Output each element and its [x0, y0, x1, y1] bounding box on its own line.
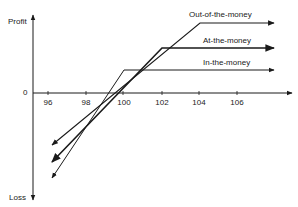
x-tick-label: 100	[117, 99, 130, 107]
series-in-the-money	[52, 70, 274, 178]
y-axis-loss-label: Loss	[9, 194, 26, 202]
y-axis-zero-label: 0	[23, 89, 27, 97]
label-out-of-the-money: Out-of-the-money	[189, 11, 252, 19]
x-tick-label: 106	[230, 99, 243, 107]
label-at-the-money: At-the-money	[203, 37, 251, 45]
x-tick-label: 96	[44, 99, 53, 107]
x-tick-label: 98	[82, 99, 91, 107]
y-axis-profit-label: Profit	[8, 18, 27, 26]
x-tick-label: 102	[155, 99, 168, 107]
x-tick-label: 104	[192, 99, 205, 107]
label-in-the-money: In-the-money	[203, 59, 250, 67]
